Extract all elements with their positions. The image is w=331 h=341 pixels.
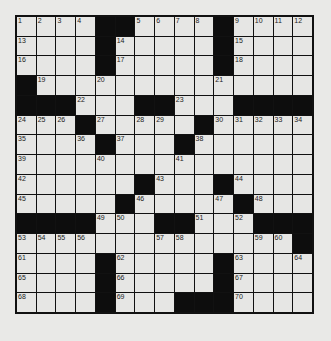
letter-cell[interactable]: 15 [234,37,253,56]
letter-cell[interactable]: 23 [175,96,194,115]
letter-cell[interactable] [175,56,194,75]
letter-cell[interactable]: 10 [254,17,273,36]
letter-cell[interactable] [175,254,194,273]
letter-cell[interactable]: 39 [17,155,36,174]
letter-cell[interactable] [155,293,174,312]
letter-cell[interactable] [116,96,135,115]
letter-cell[interactable] [195,175,214,194]
letter-cell[interactable] [293,135,312,154]
letter-cell[interactable]: 3 [56,17,75,36]
letter-cell[interactable] [175,274,194,293]
letter-cell[interactable]: 18 [234,56,253,75]
letter-cell[interactable]: 57 [155,234,174,253]
letter-cell[interactable]: 31 [234,116,253,135]
letter-cell[interactable]: 12 [293,17,312,36]
letter-cell[interactable]: 43 [155,175,174,194]
letter-cell[interactable] [37,274,56,293]
letter-cell[interactable]: 40 [96,155,115,174]
letter-cell[interactable] [37,155,56,174]
letter-cell[interactable]: 61 [17,254,36,273]
letter-cell[interactable] [116,76,135,95]
letter-cell[interactable] [56,195,75,214]
letter-cell[interactable]: 68 [17,293,36,312]
letter-cell[interactable] [76,195,95,214]
letter-cell[interactable] [135,37,154,56]
letter-cell[interactable] [155,56,174,75]
letter-cell[interactable]: 51 [195,214,214,233]
letter-cell[interactable] [135,254,154,273]
letter-cell[interactable] [56,135,75,154]
letter-cell[interactable]: 64 [293,254,312,273]
letter-cell[interactable]: 32 [254,116,273,135]
letter-cell[interactable]: 22 [76,96,95,115]
letter-cell[interactable] [56,76,75,95]
letter-cell[interactable] [274,195,293,214]
letter-cell[interactable]: 47 [214,195,233,214]
letter-cell[interactable] [56,274,75,293]
letter-cell[interactable] [293,274,312,293]
letter-cell[interactable] [76,56,95,75]
letter-cell[interactable] [155,195,174,214]
letter-cell[interactable] [116,116,135,135]
letter-cell[interactable]: 36 [76,135,95,154]
letter-cell[interactable] [274,254,293,273]
letter-cell[interactable] [76,175,95,194]
letter-cell[interactable] [234,155,253,174]
letter-cell[interactable]: 44 [234,175,253,194]
letter-cell[interactable] [135,293,154,312]
letter-cell[interactable] [76,274,95,293]
letter-cell[interactable] [175,175,194,194]
letter-cell[interactable]: 49 [96,214,115,233]
letter-cell[interactable]: 50 [116,214,135,233]
letter-cell[interactable] [254,37,273,56]
letter-cell[interactable]: 29 [155,116,174,135]
letter-cell[interactable] [76,76,95,95]
letter-cell[interactable] [195,155,214,174]
letter-cell[interactable]: 56 [76,234,95,253]
letter-cell[interactable]: 42 [17,175,36,194]
letter-cell[interactable]: 19 [37,76,56,95]
letter-cell[interactable]: 59 [254,234,273,253]
letter-cell[interactable]: 16 [17,56,36,75]
letter-cell[interactable] [195,37,214,56]
letter-cell[interactable] [155,254,174,273]
letter-cell[interactable] [214,234,233,253]
letter-cell[interactable]: 41 [175,155,194,174]
letter-cell[interactable]: 30 [214,116,233,135]
letter-cell[interactable] [56,155,75,174]
letter-cell[interactable]: 69 [116,293,135,312]
letter-cell[interactable] [254,293,273,312]
letter-cell[interactable] [293,293,312,312]
letter-cell[interactable] [135,234,154,253]
letter-cell[interactable] [293,155,312,174]
letter-cell[interactable] [214,155,233,174]
letter-cell[interactable]: 7 [175,17,194,36]
letter-cell[interactable]: 17 [116,56,135,75]
letter-cell[interactable] [195,76,214,95]
letter-cell[interactable] [37,56,56,75]
letter-cell[interactable]: 58 [175,234,194,253]
letter-cell[interactable] [135,214,154,233]
letter-cell[interactable] [274,56,293,75]
letter-cell[interactable] [274,135,293,154]
letter-cell[interactable]: 46 [135,195,154,214]
letter-cell[interactable] [96,96,115,115]
letter-cell[interactable] [195,274,214,293]
letter-cell[interactable] [37,195,56,214]
letter-cell[interactable] [116,234,135,253]
letter-cell[interactable]: 14 [116,37,135,56]
letter-cell[interactable] [155,155,174,174]
letter-cell[interactable]: 11 [274,17,293,36]
letter-cell[interactable] [37,293,56,312]
letter-cell[interactable]: 21 [214,76,233,95]
letter-cell[interactable]: 8 [195,17,214,36]
letter-cell[interactable] [135,135,154,154]
letter-cell[interactable]: 70 [234,293,253,312]
letter-cell[interactable] [274,155,293,174]
letter-cell[interactable]: 4 [76,17,95,36]
letter-cell[interactable]: 28 [135,116,154,135]
letter-cell[interactable] [37,254,56,273]
letter-cell[interactable]: 6 [155,17,174,36]
letter-cell[interactable] [56,37,75,56]
letter-cell[interactable] [37,175,56,194]
